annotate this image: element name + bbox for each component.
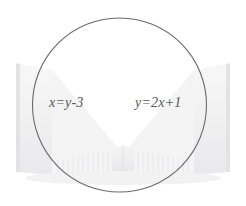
equation-right-text: y=2x+1 <box>135 95 182 110</box>
equation-left: x=y-3 <box>49 96 84 110</box>
equation-right: y=2x+1 <box>135 96 182 110</box>
equations-layer: x=y-3 y=2x+1 <box>0 0 246 206</box>
equation-left-text: x=y-3 <box>49 95 84 110</box>
figure-canvas: x=y-3 y=2x+1 <box>0 0 246 206</box>
